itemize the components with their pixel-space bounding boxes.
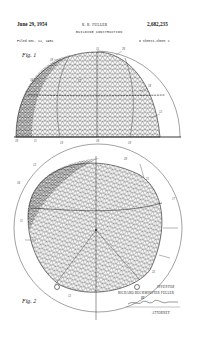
svg-text:12: 12 <box>159 110 163 114</box>
svg-text:11: 11 <box>34 139 37 143</box>
svg-text:19: 19 <box>128 141 132 145</box>
patent-drawing: 18 15 20 16 17 18 12 10 11 19 10 19 13 1… <box>0 0 221 337</box>
svg-text:17: 17 <box>172 197 176 201</box>
svg-text:11: 11 <box>20 219 23 223</box>
svg-text:20: 20 <box>122 47 126 51</box>
attorney-label: ATTORNEY <box>152 311 170 315</box>
figure-2-sphere: 13 16 20 21 17 11 23 12 <box>0 144 221 320</box>
figure-2-label: Fig. 2 <box>22 298 36 304</box>
svg-text:20: 20 <box>124 157 128 161</box>
svg-text:15: 15 <box>96 47 100 51</box>
svg-text:13: 13 <box>33 163 37 167</box>
svg-text:10: 10 <box>96 139 100 143</box>
svg-text:10: 10 <box>15 139 19 143</box>
svg-text:21: 21 <box>146 177 150 181</box>
figure-1-dome: 18 15 20 16 17 18 12 10 11 19 10 19 <box>0 0 221 160</box>
svg-text:18: 18 <box>148 84 152 88</box>
svg-text:16: 16 <box>17 181 21 185</box>
svg-text:23: 23 <box>152 270 156 274</box>
inventor-label: INVENTOR <box>157 285 175 289</box>
svg-text:17: 17 <box>78 79 82 83</box>
svg-text:12: 12 <box>68 294 72 298</box>
svg-text:16: 16 <box>30 78 34 82</box>
svg-text:18: 18 <box>50 58 54 62</box>
inventor-full-name: RICHARD BUCKMINSTER FULLER <box>118 291 174 295</box>
by-label: BY <box>141 296 145 300</box>
figure-1-label: Fig. 1 <box>22 52 36 58</box>
svg-text:19: 19 <box>60 141 64 145</box>
